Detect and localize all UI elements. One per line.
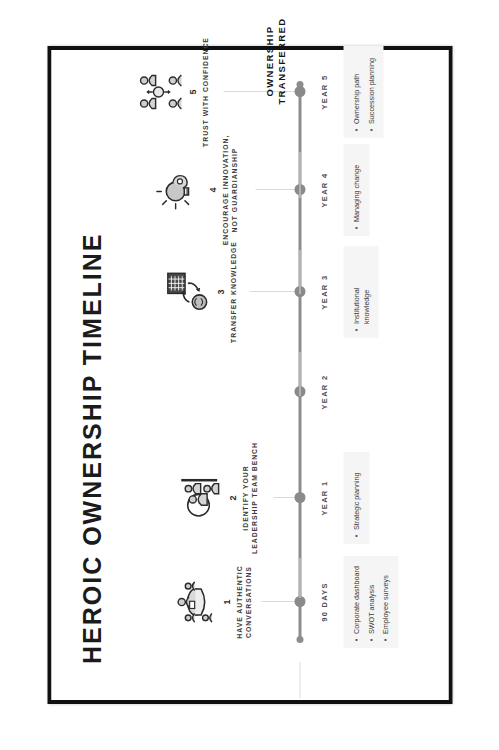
callout-line-1: OWNERSHIP (263, 0, 275, 126)
bullet-list: Institutional knowledge (351, 253, 370, 331)
milestone-3[interactable]: 3 TRANSFER KNOWLEDGE YEAR 3 Institutiona… (51, 232, 456, 352)
meeting-table-icon (169, 579, 215, 625)
bullet-group: Institutional knowledge (343, 246, 378, 338)
list-item: Managing change (351, 151, 361, 229)
year-label: YEAR 1 (319, 438, 328, 558)
handshake-trust-icon (135, 69, 181, 115)
bullet-group: Corporate dashboard SWOT analysis Employ… (343, 556, 398, 648)
tick-line (299, 250, 300, 294)
list-item: Ownership path (351, 53, 361, 131)
tick-line (299, 558, 300, 598)
year-label: YEAR 3 (319, 232, 328, 352)
bullet-list: Managing change (351, 151, 361, 229)
connector-line (261, 601, 297, 602)
year-label: YEAR 5 (319, 32, 328, 152)
list-item: Institutional knowledge (351, 253, 370, 331)
poster-frame: HEROIC OWNERSHIP TIMELINE (47, 46, 452, 704)
milestone-label: TRUST WITH CONFIDENCE (200, 32, 209, 152)
bullet-group: Strategic planning (343, 452, 369, 544)
milestone-label: IDENTIFY YOUR LEADERSHIP TEAM BENCH (240, 438, 258, 558)
year-label: 90 DAYS (319, 542, 328, 662)
bullet-group: Managing change (343, 144, 369, 236)
milestone-label: TRANSFER KNOWLEDGE (228, 232, 237, 352)
bullet-list: Corporate dashboard SWOT analysis Employ… (351, 563, 390, 641)
bullet-list: Ownership path Succession planning (351, 53, 375, 131)
team-bench-icon (175, 475, 221, 521)
milestone-number: 2 (227, 438, 237, 558)
milestone-label: HAVE AUTHENTIC CONVERSATIONS (234, 542, 252, 662)
tick-line (299, 152, 300, 198)
milestone-number: 1 (221, 542, 231, 662)
poster-canvas: HEROIC OWNERSHIP TIMELINE (51, 50, 448, 700)
connector-line (249, 291, 297, 292)
list-item: Succession planning (366, 53, 376, 131)
bullet-group: Ownership path Succession planning (343, 46, 383, 138)
timeline-node[interactable] (294, 87, 305, 98)
connector-line (255, 189, 297, 190)
milestone-5[interactable]: 5 TRUST WITH CONFIDENCE YEAR 5 Ownership… (51, 32, 456, 152)
tick-line (299, 352, 300, 396)
list-item: Corporate dashboard (351, 563, 361, 641)
list-item: Strategic planning (351, 459, 361, 537)
list-item: SWOT analysis (366, 563, 376, 641)
connector-line (273, 497, 297, 498)
ownership-transferred-callout: OWNERSHIP TRANSFERRED (263, 0, 287, 126)
timeline-node[interactable] (294, 493, 305, 504)
callout-line-2: TRANSFERRED (275, 0, 287, 126)
tick-line (299, 662, 300, 698)
milestone-2[interactable]: 2 IDENTIFY YOUR LEADERSHIP TEAM BENCH YE… (51, 438, 456, 558)
milestone-1[interactable]: 1 HAVE AUTHENTIC CONVERSATIONS 90 DAYS C… (51, 542, 456, 662)
milestone-number: 5 (187, 32, 197, 152)
list-item: Employee surveys (380, 563, 390, 641)
timeline-node[interactable] (294, 597, 305, 608)
bullet-list: Strategic planning (351, 459, 361, 537)
milestone-number: 3 (215, 232, 225, 352)
lightbulb-innovation-icon (155, 167, 201, 213)
knowledge-transfer-icon (163, 269, 209, 315)
